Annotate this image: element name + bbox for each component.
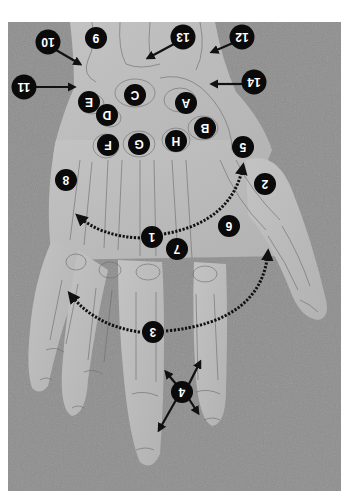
marker-label: 13 (176, 30, 190, 44)
marker-label: 9 (92, 31, 99, 45)
hand-anatomy-figure: 10913121114CAEDBHGF58261734 (8, 22, 341, 491)
marker-label: A (181, 96, 190, 110)
marker-label: 3 (149, 325, 156, 339)
marker-label: 7 (173, 242, 180, 256)
marker-label: H (172, 134, 181, 148)
marker-label: D (102, 108, 111, 122)
marker-label: 10 (41, 35, 55, 49)
marker-label: 8 (62, 173, 69, 187)
marker-label: 11 (17, 80, 30, 94)
marker-label: G (134, 137, 143, 151)
marker-label: 2 (261, 177, 268, 191)
callout-marker-5: 5 (232, 136, 254, 158)
callout-marker-9: 9 (85, 27, 107, 49)
callout-marker-g: G (128, 133, 150, 155)
callout-marker-1: 1 (141, 226, 163, 248)
marker-label: C (130, 88, 139, 102)
marker-label: B (200, 121, 209, 135)
callout-marker-4: 4 (171, 381, 193, 403)
callout-marker-13: 13 (171, 25, 196, 50)
callout-marker-6: 6 (218, 215, 240, 237)
callout-marker-b: B (194, 117, 216, 139)
callout-marker-e: E (78, 91, 100, 113)
callout-marker-f: F (97, 134, 119, 156)
cropped-caption-fragment (10, 0, 310, 4)
callout-marker-2: 2 (254, 173, 276, 195)
callout-marker-h: H (165, 130, 187, 152)
marker-label: E (85, 95, 93, 109)
callout-marker-10: 10 (36, 30, 61, 55)
marker-label: 14 (247, 75, 261, 89)
hand-diagram-canvas: 10913121114CAEDBHGF58261734 (8, 22, 341, 491)
callout-marker-11: 11 (12, 75, 37, 100)
callout-marker-7: 7 (166, 238, 188, 260)
callout-marker-8: 8 (55, 169, 77, 191)
callout-marker-12: 12 (230, 25, 255, 50)
marker-label: 12 (235, 30, 249, 44)
marker-label: 6 (225, 219, 232, 233)
callout-marker-d: D (96, 104, 118, 126)
callout-marker-14: 14 (242, 70, 267, 95)
marker-label: 5 (239, 140, 246, 154)
callout-marker-a: A (175, 92, 197, 114)
marker-label: F (104, 138, 111, 152)
callout-marker-c: C (124, 84, 146, 106)
marker-label: 1 (148, 230, 155, 244)
marker-label: 4 (178, 385, 185, 399)
callout-marker-3: 3 (142, 321, 164, 343)
